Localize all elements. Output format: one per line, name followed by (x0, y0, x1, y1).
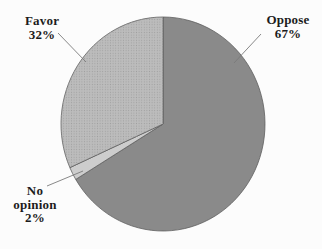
favor-callout: Favor 32% (16, 14, 68, 41)
no-opinion-callout: No opinion 2% (9, 184, 61, 225)
pie-chart-figure: Favor 32% Oppose 67% No opinion 2% (0, 0, 322, 249)
oppose-percent: 67% (257, 27, 319, 41)
oppose-callout: Oppose 67% (257, 13, 319, 40)
favor-label: Favor (16, 14, 68, 28)
pie-slices (61, 17, 265, 231)
no-opinion-percent: 2% (9, 211, 61, 225)
favor-percent: 32% (16, 28, 68, 42)
oppose-label: Oppose (257, 13, 319, 27)
no-opinion-label: No opinion (9, 184, 61, 211)
